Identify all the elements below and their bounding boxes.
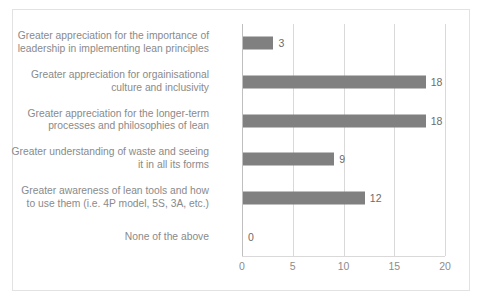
x-axis-tick-label: 15 [388, 260, 400, 272]
x-axis-tick-label: 20 [439, 260, 451, 272]
bar-value-label: 18 [426, 76, 443, 88]
bar-row: Greater appreciation for the longer-term… [242, 101, 445, 140]
category-label: None of the above [0, 230, 209, 243]
x-axis-tick-label: 5 [290, 260, 296, 272]
x-axis-tick-label: 0 [239, 260, 245, 272]
bar-row: Greater awareness of lean tools and how … [242, 179, 445, 218]
bar-value-label: 18 [426, 115, 443, 127]
bar [243, 191, 365, 204]
bar-row: Greater understanding of waste and seein… [242, 140, 445, 179]
bar [243, 153, 334, 166]
x-axis-tick-label: 10 [338, 260, 350, 272]
bar [243, 37, 273, 50]
plot-area: 05101520 Greater appreciation for the im… [242, 24, 445, 256]
category-axis-line [242, 256, 445, 257]
category-label: Greater appreciation for the importance … [0, 31, 209, 56]
category-label: Greater awareness of lean tools and how … [0, 185, 209, 210]
bar-value-label: 3 [273, 37, 284, 49]
gridline [445, 24, 446, 256]
bar-value-label: 0 [243, 231, 254, 243]
bar-value-label: 12 [365, 192, 382, 204]
bar [243, 114, 426, 127]
bar-value-label: 9 [334, 153, 345, 165]
category-label: Greater understanding of waste and seein… [0, 147, 209, 172]
bar [243, 75, 426, 88]
category-label: Greater appreciation for the longer-term… [0, 108, 209, 133]
bar-row: Greater appreciation for the importance … [242, 24, 445, 63]
bar-row: Greater appreciation for orgainisational… [242, 63, 445, 102]
category-label: Greater appreciation for orgainisational… [0, 69, 209, 94]
bar-row: None of the above0 [242, 217, 445, 256]
chart-container: 05101520 Greater appreciation for the im… [12, 9, 470, 291]
